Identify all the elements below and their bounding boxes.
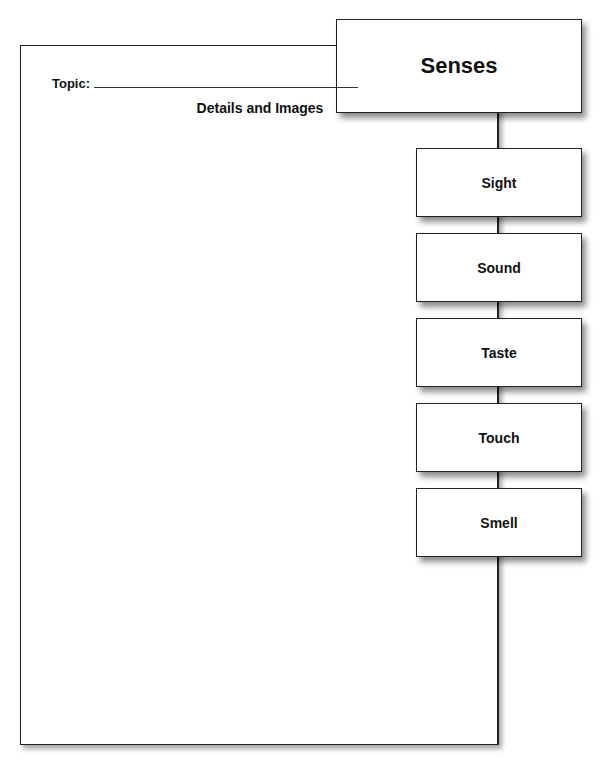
senses-title: Senses xyxy=(420,53,497,79)
sense-box-smell: Smell xyxy=(416,488,582,557)
sense-box-sight: Sight xyxy=(416,148,582,217)
sense-label: Sight xyxy=(482,175,517,191)
sense-label: Taste xyxy=(481,345,517,361)
topic-label: Topic: xyxy=(52,76,90,91)
sense-label: Touch xyxy=(479,430,520,446)
details-heading: Details and Images xyxy=(160,100,360,116)
sense-box-taste: Taste xyxy=(416,318,582,387)
senses-title-box: Senses xyxy=(336,19,582,113)
topic-field: Topic: xyxy=(52,75,358,91)
sense-box-sound: Sound xyxy=(416,233,582,302)
sense-box-touch: Touch xyxy=(416,403,582,472)
sense-label: Smell xyxy=(480,515,517,531)
sense-label: Sound xyxy=(477,260,521,276)
topic-input-line[interactable] xyxy=(94,75,358,88)
details-writing-area[interactable] xyxy=(40,125,390,725)
